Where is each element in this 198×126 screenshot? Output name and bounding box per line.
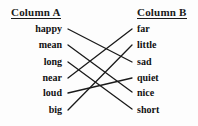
match-line-long-to-short[interactable] (68, 62, 132, 109)
match-line-big-to-little[interactable] (68, 45, 132, 110)
column-a-word[interactable]: near (0, 73, 62, 83)
column-b-word[interactable]: short (137, 105, 159, 115)
column-a-word[interactable]: big (0, 105, 62, 115)
column-b-heading: Column B (137, 6, 187, 19)
column-b-word[interactable]: sad (137, 57, 151, 67)
column-a-word[interactable]: loud (0, 88, 62, 98)
column-b-word[interactable]: nice (137, 88, 154, 98)
column-a-heading: Column A (11, 6, 61, 19)
column-a-word[interactable]: happy (0, 24, 62, 34)
match-line-near-to-far[interactable] (68, 29, 132, 78)
column-b-word[interactable]: far (137, 24, 150, 34)
column-b-word[interactable]: quiet (137, 73, 159, 83)
worksheet-canvas: Column A Column B happymeanlongnearloudb… (0, 0, 198, 126)
column-a-word[interactable]: mean (0, 40, 62, 50)
match-line-loud-to-quiet[interactable] (68, 78, 132, 93)
column-a-word[interactable]: long (0, 57, 62, 67)
match-line-mean-to-nice[interactable] (68, 45, 132, 92)
match-line-happy-to-sad[interactable] (68, 29, 132, 62)
column-b-word[interactable]: little (137, 40, 156, 50)
